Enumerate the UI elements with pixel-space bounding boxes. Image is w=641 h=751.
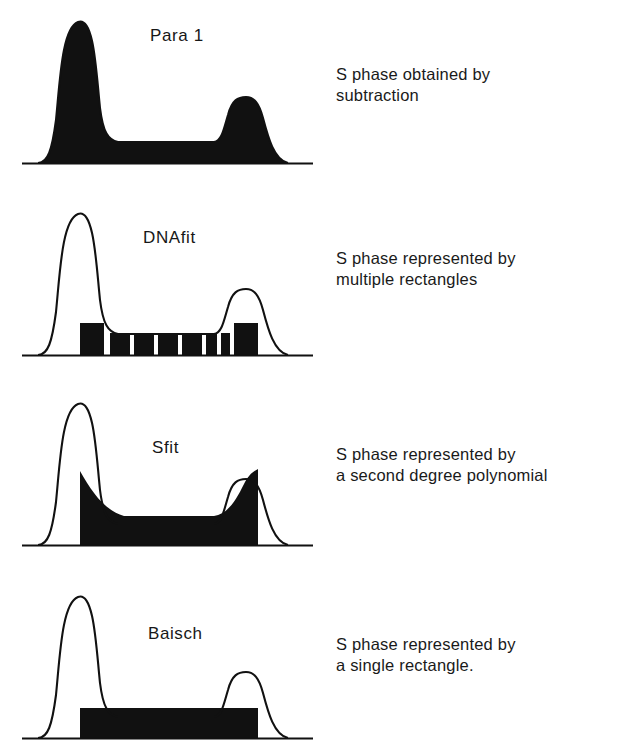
s-rect-8	[234, 323, 258, 355]
caption-baisch: S phase represented by a single rectangl…	[336, 634, 516, 676]
caption-line-2: multiple rectangles	[336, 269, 516, 290]
s-rect-5	[182, 333, 202, 355]
method-label-para1: Para 1	[150, 26, 204, 46]
method-label-sfit: Sfit	[152, 438, 179, 458]
s-rect-4	[158, 333, 178, 355]
plot-baisch	[0, 562, 330, 748]
caption-line-2: subtraction	[336, 85, 490, 106]
s-phase-rectangles-dnafit	[80, 323, 258, 355]
caption-sfit: S phase represented by a second degree p…	[336, 444, 548, 486]
method-label-baisch: Baisch	[148, 624, 203, 644]
plot-dnafit	[0, 186, 330, 372]
caption-line-1: S phase represented by	[336, 248, 516, 269]
method-label-dnafit: DNAfit	[143, 228, 196, 248]
dna-histogram-figure: Para 1 S phase obtained by subtraction	[0, 0, 641, 751]
caption-para1: S phase obtained by subtraction	[336, 64, 490, 106]
caption-line-2: a second degree polynomial	[336, 465, 548, 486]
plot-sfit	[0, 376, 330, 562]
s-rect-1	[80, 323, 104, 355]
caption-line-1: S phase represented by	[336, 444, 548, 465]
s-phase-rectangle-baisch	[80, 708, 258, 738]
panel-para1: Para 1 S phase obtained by subtraction	[0, 0, 641, 186]
panel-dnafit: DNAfit S phase represented by multiple r…	[0, 186, 641, 372]
caption-dnafit: S phase represented by multiple rectangl…	[336, 248, 516, 290]
panel-baisch: Baisch S phase represented by a single r…	[0, 562, 641, 748]
s-rect-3	[134, 333, 154, 355]
s-rect-2	[110, 333, 130, 355]
s-rect-6	[206, 333, 217, 355]
s-phase-polynomial-sfit	[80, 469, 258, 545]
caption-line-2: a single rectangle.	[336, 655, 516, 676]
caption-line-1: S phase represented by	[336, 634, 516, 655]
caption-line-1: S phase obtained by	[336, 64, 490, 85]
panel-sfit: Sfit S phase represented by a second deg…	[0, 376, 641, 562]
s-rect-7	[221, 333, 230, 355]
